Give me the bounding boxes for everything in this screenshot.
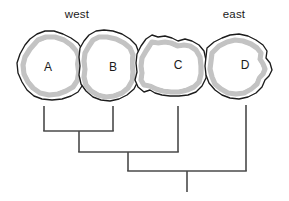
east-label: east — [223, 8, 246, 20]
area-blob-b: B — [79, 30, 139, 101]
area-label-d: D — [241, 58, 250, 72]
area-label-b: B — [109, 60, 117, 74]
area-blob-c: C — [135, 35, 207, 96]
figure-canvas: west east A B C D — [0, 0, 289, 201]
area-cladogram-figure: west east A B C D — [0, 0, 289, 201]
area-label-c: C — [174, 58, 183, 72]
area-label-a: A — [44, 60, 52, 74]
cladogram — [43, 105, 247, 192]
area-blob-a: A — [17, 31, 84, 100]
area-blob-c-fill — [144, 45, 198, 89]
west-label: west — [64, 8, 90, 20]
area-blob-d: D — [205, 34, 272, 99]
